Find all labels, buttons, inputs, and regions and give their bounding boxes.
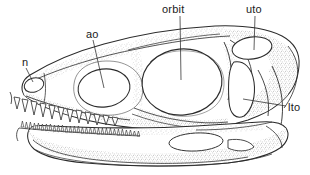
mandible-tip xyxy=(17,128,19,141)
mandible-group xyxy=(17,121,288,166)
label-lower-temporal: lto xyxy=(288,101,300,113)
label-naris: n xyxy=(22,56,28,68)
label-upper-temporal: uto xyxy=(246,3,262,15)
label-orbit: orbit xyxy=(162,3,184,15)
label-antorbital-fenestra: ao xyxy=(86,28,99,40)
skull-diagram-figure: n ao orbit uto lto xyxy=(0,0,310,175)
premaxilla-tip xyxy=(10,92,12,104)
skull-illustration xyxy=(0,0,310,175)
